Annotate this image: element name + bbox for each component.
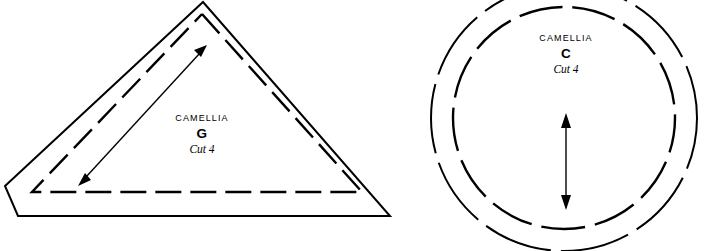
piece-c-brand-label: CAMELLIA: [539, 33, 592, 43]
piece-g-letter: G: [197, 126, 208, 141]
piece-c-grainline-arrowhead-bottom: [561, 195, 571, 210]
piece-g-grainline-arrowhead-lower: [78, 173, 91, 186]
pattern-sheet: CAMELLIA G Cut 4 CAMELLIA C Cut 4: [0, 0, 706, 251]
pattern-piece-g: CAMELLIA G Cut 4: [5, 2, 390, 216]
piece-c-cut-instruction: Cut 4: [553, 63, 578, 75]
piece-c-grainline-arrowhead-top: [561, 113, 571, 128]
piece-c-grainline: [561, 113, 571, 210]
piece-c-letter: C: [561, 46, 571, 61]
pattern-drawing: CAMELLIA G Cut 4 CAMELLIA C Cut 4: [0, 0, 706, 251]
pattern-piece-c: CAMELLIA C Cut 4: [431, 0, 697, 251]
piece-g-grainline-arrowhead-upper: [194, 45, 207, 57]
piece-g-stitching-line: [32, 14, 362, 192]
piece-g-brand-label: CAMELLIA: [175, 113, 228, 123]
piece-g-cutting-line: [5, 2, 390, 216]
piece-g-cut-instruction: Cut 4: [189, 143, 214, 155]
